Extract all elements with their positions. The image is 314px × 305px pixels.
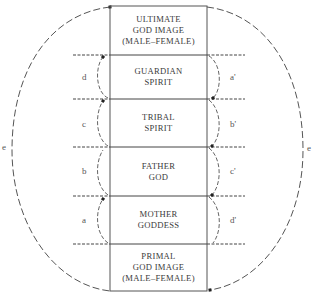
stage-line: SPIRIT [110,77,207,88]
stage-father-god: FATHER GOD [110,147,207,196]
stage-line: (MALE–FEMALE) [110,273,207,284]
stage-primal-god-image: PRIMAL GOD IMAGE (MALE–FEMALE) [110,244,207,291]
label-a-prime: a' [230,72,236,82]
outer-arc-left [12,7,110,291]
stage-guardian-spirit: GUARDIAN SPIRIT [110,55,207,99]
outer-arc-right [207,7,303,290]
right-loops [209,56,219,243]
stage-ultimate-god-image: ULTIMATE GOD IMAGE (MALE–FEMALE) [110,6,207,55]
label-b-prime: b' [230,119,236,129]
stage-mother-goddess: MOTHER GODDESS [110,196,207,244]
label-c-prime: c' [230,166,236,176]
stage-line: ULTIMATE [110,14,207,25]
label-a: a [82,215,86,225]
label-d-prime: d' [230,215,236,225]
stage-line: (MALE–FEMALE) [110,36,207,47]
stage-line: TRIBAL [110,112,207,123]
stage-line: GOD IMAGE [110,25,207,36]
stage-line: GODDESS [110,220,207,231]
label-b: b [82,166,87,176]
stage-line: GOD [110,172,207,183]
stage-line: MOTHER [110,209,207,220]
label-d: d [82,72,87,82]
stage-line: SPIRIT [110,123,207,134]
left-loops [98,57,108,243]
label-e-left: e [2,142,6,152]
stage-line: FATHER [110,161,207,172]
stage-line: PRIMAL [110,251,207,262]
stage-line: GUARDIAN [110,66,207,77]
stage-tribal-spirit: TRIBAL SPIRIT [110,99,207,147]
stage-line: GOD IMAGE [110,262,207,273]
label-e-right: e [307,143,311,153]
label-c: c [82,119,86,129]
diagram-canvas: ULTIMATE GOD IMAGE (MALE–FEMALE) GUARDIA… [0,0,314,305]
